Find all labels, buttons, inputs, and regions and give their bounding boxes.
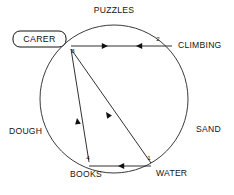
arrowhead-left-icon (136, 43, 142, 49)
node-number-1: 1 (147, 154, 151, 161)
edge-4-to-3 (71, 49, 89, 162)
node-number-3: 3 (71, 47, 75, 54)
arrowhead-upleft-icon (104, 110, 112, 118)
arc-label-sand: SAND (196, 124, 221, 134)
diagram-arrowheads (74, 43, 142, 169)
carer-badge[interactable]: CARER (13, 31, 66, 47)
diagram-edges (71, 46, 172, 166)
circle-node-link-diagram: 1234 PUZZLESSANDDOUGH WATERCLIMBINGBOOKS… (0, 0, 234, 195)
arrowhead-up-icon (74, 118, 81, 125)
outer-circle (40, 25, 188, 173)
node-label-books: BOOKS (70, 169, 102, 179)
arrowhead-left-icon (118, 163, 124, 169)
diagram-canvas: 1234 PUZZLESSANDDOUGH WATERCLIMBINGBOOKS… (0, 0, 234, 195)
node-label-water: WATER (156, 168, 187, 178)
arc-label-dough: DOUGH (9, 126, 42, 136)
diagram-node-numbers: 1234 (71, 35, 160, 161)
node-number-2: 2 (156, 35, 160, 42)
arrowhead-right-icon (102, 43, 108, 49)
node-label-climbing: CLIMBING (178, 40, 222, 50)
diagram-node-labels: WATERCLIMBINGBOOKS (70, 40, 222, 179)
diagram-circle-outline (40, 25, 188, 173)
arc-label-puzzles: PUZZLES (94, 5, 134, 15)
carer-box-label: CARER (23, 34, 55, 44)
edge-1-to-3 (71, 49, 151, 163)
node-number-4: 4 (86, 154, 90, 161)
